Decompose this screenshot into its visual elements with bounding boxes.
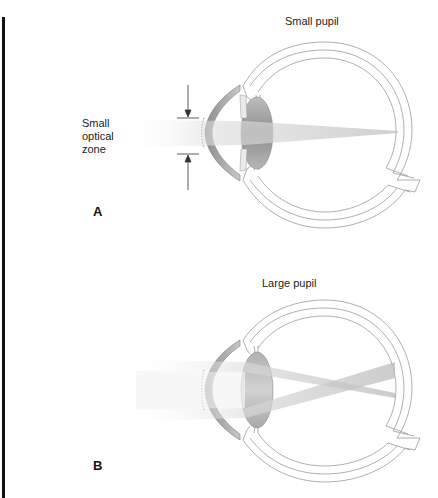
eye-diagram-small-pupil — [0, 0, 438, 250]
eye-diagram-large-pupil — [0, 250, 438, 498]
